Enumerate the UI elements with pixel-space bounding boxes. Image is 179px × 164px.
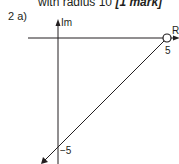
imaginary-axis-label: Im	[61, 17, 72, 28]
half-line	[45, 41, 164, 160]
argand-diagram: Im Re 5 −5	[0, 0, 179, 164]
open-point-circle	[163, 34, 171, 42]
real-tick-label: 5	[165, 45, 171, 56]
imaginary-axis-arrow-icon	[56, 19, 61, 26]
real-axis-arrow-icon	[173, 36, 179, 41]
imaginary-tick-label: −5	[60, 145, 72, 156]
real-axis-label: Re	[172, 25, 179, 36]
